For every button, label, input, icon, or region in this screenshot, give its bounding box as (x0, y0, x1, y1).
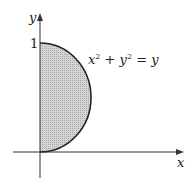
y-axis-arrow-icon (37, 13, 43, 21)
shaded-region (40, 43, 91, 152)
x-axis-label: x (177, 155, 185, 170)
region-diagram: y x 1 x2 + y2 = y (0, 0, 192, 183)
y-axis-label: y (28, 10, 37, 25)
y-tick-1: 1 (30, 36, 38, 51)
curve-equation: x2 + y2 = y (88, 52, 159, 67)
